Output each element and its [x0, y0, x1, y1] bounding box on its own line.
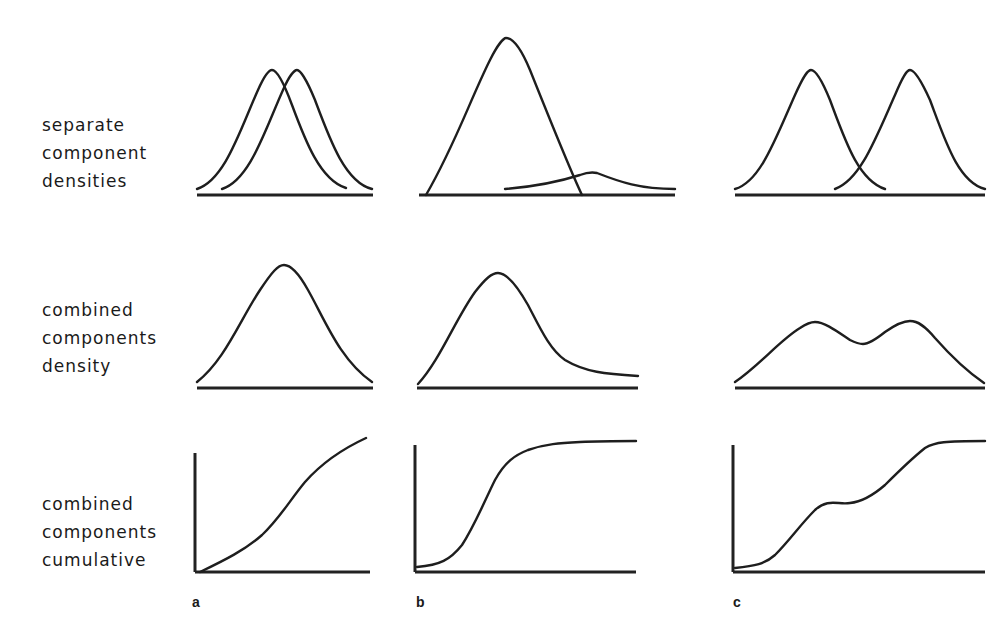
plot-b-combined-density: [417, 273, 638, 388]
plot-c-separate: [735, 70, 985, 195]
plot-b-cumulative: [415, 441, 636, 572]
plot-c-combined-density: [735, 321, 985, 388]
plot-c-cumulative: [733, 441, 985, 572]
mixture-plots: [0, 0, 1006, 642]
plot-a-cumulative: [195, 438, 370, 572]
plot-a-separate: [197, 70, 373, 195]
plot-a-combined-density: [197, 265, 373, 388]
plot-b-separate: [419, 38, 675, 195]
